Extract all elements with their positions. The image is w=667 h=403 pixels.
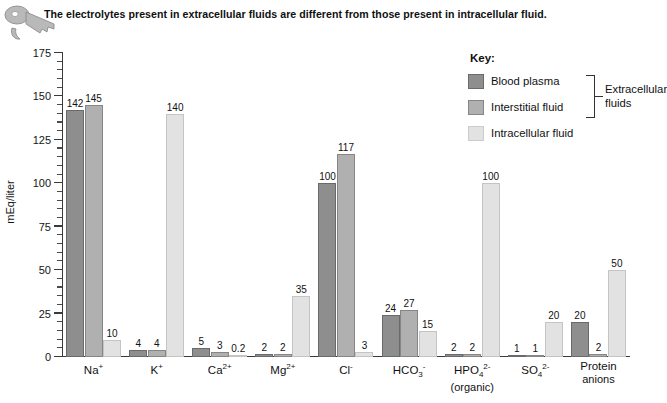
- bar-group: 2235: [251, 52, 314, 357]
- bar: 2: [274, 354, 292, 357]
- bar: 35: [292, 296, 310, 357]
- bar-value-label: 1: [533, 343, 539, 354]
- legend-label: Blood plasma: [491, 75, 559, 87]
- bar: 20: [571, 322, 589, 357]
- bar-value-label: 27: [404, 298, 415, 309]
- bar-value-label: 35: [296, 284, 307, 295]
- bar-group: 242715: [378, 52, 441, 357]
- bar: 1: [508, 355, 526, 357]
- bar-value-label: 20: [574, 310, 585, 321]
- bar-value-label: 2: [451, 342, 457, 353]
- bar-value-label: 2: [469, 342, 475, 353]
- bar-value-label: 117: [338, 142, 354, 153]
- bar: 2: [589, 354, 607, 357]
- bar: 20: [545, 322, 563, 357]
- bar: 24: [382, 315, 400, 357]
- y-tick-label: 25: [39, 308, 51, 320]
- bar-value-label: 20: [548, 310, 559, 321]
- bar-value-label: 0.2: [231, 343, 245, 354]
- bar-value-label: 15: [422, 319, 433, 330]
- bar-value-label: 3: [362, 340, 368, 351]
- x-tick-label: K+: [150, 360, 162, 377]
- bar-group: 14214510: [62, 52, 125, 357]
- y-axis-title: mEq/liter: [4, 180, 16, 223]
- legend-grouping-bracket: [586, 75, 595, 118]
- bar-value-label: 24: [385, 303, 396, 314]
- x-tick-label: SO42-: [521, 360, 549, 381]
- legend-swatch: [468, 100, 484, 115]
- figure-header: The electrolytes present in extracellula…: [0, 0, 652, 42]
- bracket-label-line1: Extracellular: [605, 83, 667, 95]
- x-tick-label: Mg2+: [270, 360, 295, 377]
- bar-value-label: 2: [280, 342, 286, 353]
- chart-legend: Key: Blood plasmaInterstitial fluidIntra…: [462, 52, 652, 144]
- bar: 3: [355, 352, 373, 357]
- y-tick-label: 75: [39, 221, 51, 233]
- y-tick-major: [54, 356, 62, 357]
- bar: 15: [419, 331, 437, 357]
- y-tick-label: 175: [33, 47, 51, 59]
- y-tick-major: [54, 139, 62, 140]
- bar-value-label: 50: [611, 258, 622, 269]
- bar-value-label: 140: [167, 102, 184, 113]
- bar-value-label: 100: [319, 171, 336, 182]
- bar-value-label: 4: [154, 338, 160, 349]
- bar-value-label: 1: [514, 343, 520, 354]
- y-tick-major: [54, 312, 62, 313]
- x-tick-label: Na+: [84, 360, 103, 377]
- y-tick-major: [54, 52, 62, 53]
- bar: 3: [211, 352, 229, 357]
- bar: 117: [337, 154, 355, 357]
- bar-value-label: 100: [482, 171, 499, 182]
- legend-swatch: [468, 126, 484, 141]
- y-tick-major: [54, 95, 62, 96]
- legend-bracket-label: Extracellular fluids: [605, 83, 667, 110]
- bar-value-label: 4: [135, 338, 141, 349]
- bar-group: 1001173: [314, 52, 377, 357]
- bar: 5: [192, 348, 210, 357]
- bar: 2: [463, 354, 481, 357]
- bar-group: 44140: [125, 52, 188, 357]
- bar: 2: [445, 354, 463, 357]
- bar: 27: [400, 310, 418, 357]
- legend-label: Intracellular fluid: [491, 127, 573, 139]
- x-tick-label: HCO3-: [393, 360, 426, 381]
- bar: 4: [129, 350, 147, 357]
- figure-caption: The electrolytes present in extracellula…: [44, 8, 644, 21]
- y-tick-label: 0: [45, 351, 51, 363]
- x-tick-label: Ca2+: [208, 360, 232, 377]
- legend-label: Interstitial fluid: [491, 101, 563, 113]
- legend-bracket-stem: [595, 96, 603, 97]
- y-tick-label: 100: [33, 177, 51, 189]
- bar: 145: [85, 105, 103, 357]
- bar-value-label: 2: [596, 342, 602, 353]
- x-tick-label: Proteinanions: [580, 360, 616, 386]
- bar-value-label: 10: [106, 328, 117, 339]
- bar-value-label: 5: [198, 336, 204, 347]
- bar-value-label: 145: [85, 93, 102, 104]
- bar: 50: [608, 270, 626, 357]
- legend-title: Key:: [470, 52, 495, 64]
- bar: 1: [526, 355, 544, 357]
- y-tick-major: [54, 225, 62, 226]
- bracket-label-line2: fluids: [605, 97, 631, 109]
- bar: 0.2: [229, 355, 247, 357]
- bar: 2: [255, 354, 273, 357]
- bar: 100: [318, 183, 336, 357]
- bar-value-label: 2: [262, 342, 268, 353]
- y-tick-major: [54, 182, 62, 183]
- y-tick-label: 150: [33, 90, 51, 102]
- bar: 100: [482, 183, 500, 357]
- y-tick-label: 125: [33, 134, 51, 146]
- bar-group: 530.2: [188, 52, 251, 357]
- bar: 142: [66, 110, 84, 357]
- y-tick-label: 50: [39, 264, 51, 276]
- legend-swatch: [468, 74, 484, 89]
- bar: 4: [148, 350, 166, 357]
- x-tick-label: HPO42-(organic): [451, 360, 494, 394]
- y-tick-major: [54, 269, 62, 270]
- bar: 140: [166, 114, 184, 357]
- bar-value-label: 142: [67, 98, 84, 109]
- bar: 10: [103, 340, 121, 357]
- bar-value-label: 3: [217, 340, 223, 351]
